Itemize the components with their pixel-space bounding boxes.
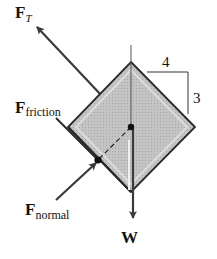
tension-arrow bbox=[37, 27, 102, 96]
tension-label: FT bbox=[15, 3, 32, 24]
friction-label: Ffriction bbox=[15, 98, 61, 119]
normal-force-label: Fnormal bbox=[25, 200, 70, 222]
weight-label: W bbox=[121, 228, 138, 247]
normal-force-arrow bbox=[56, 163, 96, 200]
free-body-diagram: FT Ffriction Fnormal W 4 3 bbox=[0, 0, 217, 259]
slope-run-label: 4 bbox=[162, 54, 170, 70]
slope-rise-label: 3 bbox=[193, 90, 201, 106]
contact-point-dot bbox=[94, 156, 101, 163]
center-of-mass-dot bbox=[128, 124, 134, 130]
